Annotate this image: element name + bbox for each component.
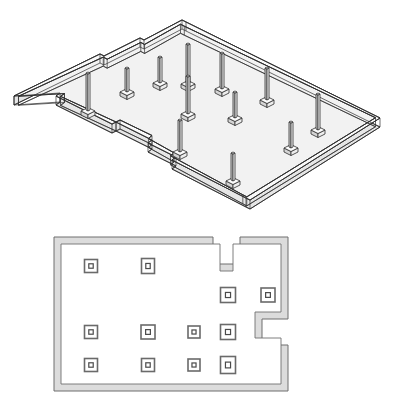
column-shaft-right <box>267 68 269 100</box>
column-shaft-right <box>235 92 237 118</box>
column-shaft-right <box>233 153 235 181</box>
column-pad-core <box>266 293 271 298</box>
column-pad[interactable] <box>142 259 155 274</box>
column-pad-core <box>192 330 196 334</box>
column-top-cap <box>125 67 129 69</box>
column-pad-core <box>89 264 93 268</box>
drawing-sheet <box>0 0 395 409</box>
column-pad-core <box>146 363 150 367</box>
column-top-cap <box>316 93 320 95</box>
column-pad[interactable] <box>141 325 155 339</box>
column-top-cap <box>186 43 190 45</box>
column-shaft-right <box>160 57 162 83</box>
column-pad-core <box>89 330 93 334</box>
column-shaft-right <box>88 73 90 111</box>
column-pad[interactable] <box>261 288 275 302</box>
foundation-wall-iso <box>14 20 380 209</box>
column-pad[interactable] <box>85 326 98 339</box>
column-top-cap <box>233 91 237 93</box>
column-pad-core <box>146 330 151 335</box>
column-pad-core <box>225 362 230 368</box>
column-shaft-right <box>318 94 320 130</box>
column-shaft-right <box>291 122 293 148</box>
column-pad-core <box>225 292 230 297</box>
column-top-cap <box>265 67 269 69</box>
column-pad[interactable] <box>221 357 236 374</box>
column-pad[interactable] <box>142 359 155 372</box>
column-shaft-right <box>222 53 224 89</box>
column-pad[interactable] <box>188 359 200 371</box>
column-pad[interactable] <box>188 326 200 338</box>
column-top-cap <box>186 75 190 77</box>
column-shaft-right <box>180 120 182 152</box>
column-pad[interactable] <box>221 288 236 303</box>
column-pad-core <box>192 363 196 367</box>
column-top-cap <box>178 119 182 121</box>
column-top-cap <box>86 72 90 74</box>
column-pad[interactable] <box>85 260 98 273</box>
column-pad[interactable] <box>85 359 98 372</box>
column-pad-core <box>225 329 230 334</box>
column-top-cap <box>158 56 162 58</box>
column-top-cap <box>289 121 293 123</box>
column-shaft-right <box>188 76 190 114</box>
column-top-cap <box>220 52 224 54</box>
column-shaft-right <box>127 68 129 92</box>
column-pad-core <box>89 363 93 367</box>
floor-plan-view <box>0 219 395 409</box>
column-pad[interactable] <box>221 325 236 340</box>
column-pad-core <box>146 263 150 268</box>
column-top-cap <box>231 152 235 154</box>
isometric-foundation-view <box>0 0 395 230</box>
